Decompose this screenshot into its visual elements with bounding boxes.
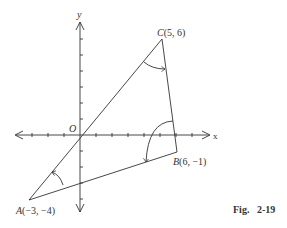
side-AC (29, 39, 162, 200)
side-AB (29, 152, 177, 200)
point-C-label: C(5, 6) (157, 27, 185, 39)
y-axis-label: y (76, 9, 82, 20)
angle-C-arc (144, 62, 165, 69)
figure-caption: Fig. 2-19 (233, 204, 275, 215)
x-axis-label: x (213, 131, 218, 141)
point-A-label: A(−3, −4) (15, 205, 55, 217)
point-B-label: B(6, −1) (173, 156, 206, 168)
origin-label: O (69, 123, 76, 134)
angle-B-arc (146, 121, 173, 162)
triangle-diagram: y x O C(5, 6) B(6, −1) A(−3, −4) Fig. 2-… (0, 0, 287, 228)
angle-A-arc (52, 172, 63, 185)
